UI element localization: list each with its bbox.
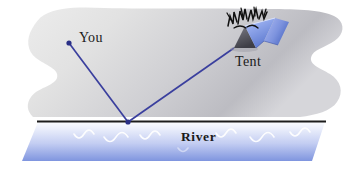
- label-you: You: [79, 30, 103, 46]
- you-point-dot: [66, 40, 71, 45]
- river-band: [22, 122, 325, 161]
- illustration-canvas: You Tent River: [0, 0, 364, 169]
- label-river: River: [181, 129, 216, 145]
- land-mass: [28, 8, 343, 117]
- reflection-point-dot: [125, 119, 130, 124]
- label-tent: Tent: [235, 54, 261, 70]
